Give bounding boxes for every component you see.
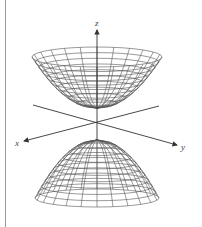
z-axis-label: z (94, 18, 99, 28)
hyperboloid-diagram: z x y (0, 0, 202, 227)
y-axis-label: y (180, 142, 185, 152)
y-axis (33, 105, 177, 145)
lower-sheet (35, 140, 159, 207)
x-axis (24, 106, 159, 141)
x-axis-label: x (14, 138, 19, 148)
